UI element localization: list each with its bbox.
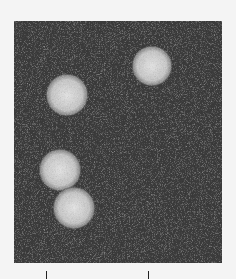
micrograph	[14, 21, 222, 263]
virus-particle	[38, 148, 82, 192]
virus-particle	[45, 73, 89, 117]
virus-particle	[52, 186, 96, 230]
micrograph-background	[14, 21, 222, 263]
scale-bar-tick-right	[148, 271, 149, 279]
virus-particle	[131, 45, 173, 87]
scale-bar-tick-left	[46, 271, 47, 279]
